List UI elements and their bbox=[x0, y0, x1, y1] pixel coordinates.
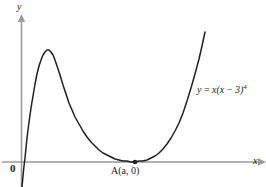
equation-equals: = bbox=[204, 84, 210, 95]
y-axis-arrowhead bbox=[18, 14, 25, 22]
origin-label: 0 bbox=[10, 163, 16, 174]
x-axis-label: x bbox=[253, 156, 257, 166]
curve-equation-label: y = x(x − 3)4 bbox=[197, 85, 247, 95]
x-axis-arrowhead bbox=[258, 158, 266, 165]
point-a-label: A(a, 0) bbox=[111, 166, 139, 176]
point-a-marker bbox=[133, 160, 138, 165]
graph-figure: y x 0 A(a, 0) y = x(x − 3)4 bbox=[0, 0, 266, 187]
equation-rhs-open: x(x bbox=[212, 84, 224, 95]
equation-exponent: 4 bbox=[243, 83, 247, 91]
function-curve bbox=[22, 32, 205, 187]
equation-minus-sign: − bbox=[227, 84, 233, 95]
y-axis-label: y bbox=[17, 2, 21, 12]
equation-lhs: y bbox=[197, 84, 201, 95]
